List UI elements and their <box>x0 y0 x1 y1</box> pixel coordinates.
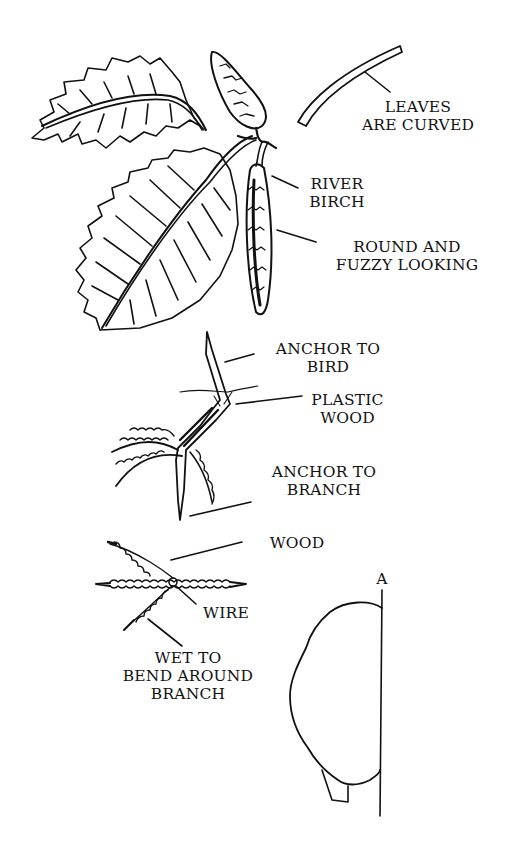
catkin-icon <box>247 142 272 314</box>
foot-side-icon <box>112 332 258 520</box>
label-a-marker: A <box>370 570 394 588</box>
upper-leaf-icon <box>32 56 206 148</box>
label-anchor-branch: ANCHOR TO BRANCH <box>254 463 394 499</box>
label-wood: WOOD <box>252 534 342 552</box>
label-wire: WIRE <box>194 604 258 622</box>
label-wet-bend: WET TO BEND AROUND BRANCH <box>108 649 268 703</box>
label-leaves-curved: LEAVES ARE CURVED <box>338 98 498 134</box>
label-river-birch: RIVER BIRCH <box>302 175 372 211</box>
cone-icon <box>211 52 276 148</box>
profile-outline-icon <box>290 590 382 816</box>
label-plastic-wood: PLASTIC WOOD <box>300 391 395 427</box>
label-round-fuzzy: ROUND AND FUZZY LOOKING <box>322 238 492 274</box>
label-anchor-bird: ANCHOR TO BIRD <box>258 340 398 376</box>
lower-leaf-icon <box>76 136 256 330</box>
